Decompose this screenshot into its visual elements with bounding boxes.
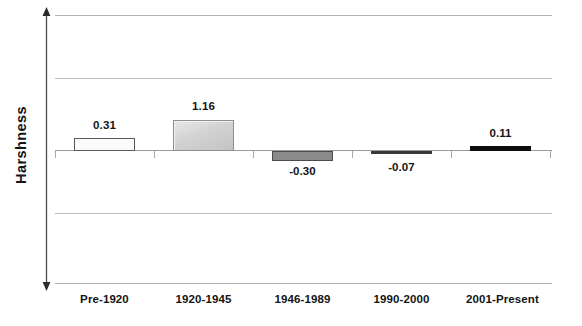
bar-pre-1920	[74, 138, 135, 151]
y-axis-title-label: Harshness	[13, 106, 29, 184]
arrow-up-icon	[43, 7, 51, 16]
x-axis-label-1920-1945: 1920-1945	[164, 293, 243, 305]
axis-tick	[352, 151, 353, 158]
gridline-lower	[55, 213, 552, 214]
axis-tick	[55, 151, 56, 158]
bar-1946-1989	[272, 151, 333, 161]
bar-value-label-pre-1920: 0.31	[74, 119, 135, 131]
x-axis-label-1990-2000: 1990-2000	[362, 293, 441, 305]
axis-tick	[154, 151, 155, 158]
x-axis-label-1946-1989: 1946-1989	[263, 293, 342, 305]
arrow-down-icon	[43, 282, 51, 291]
bar-1920-1945	[173, 120, 234, 151]
gridline-bottom	[55, 283, 552, 284]
y-axis-arrow	[38, 6, 55, 292]
plot-area: 0.31 1.16 -0.30 -0.07 0.11	[55, 6, 552, 292]
bar-value-label-1990-2000: -0.07	[366, 161, 437, 173]
axis-tick	[253, 151, 254, 158]
bar-2001-present	[470, 146, 531, 151]
gridline-upper	[55, 78, 552, 79]
bar-value-label-1920-1945: 1.16	[173, 100, 234, 112]
x-axis-label-2001-present: 2001-Present	[456, 293, 549, 305]
bar-value-label-1946-1989: -0.30	[267, 165, 338, 177]
bar-1990-2000	[371, 151, 432, 154]
axis-tick	[451, 151, 452, 158]
harshness-bar-chart: Harshness 0.31 1.16 -0.30	[0, 0, 582, 326]
y-axis-title: Harshness	[0, 0, 42, 290]
bar-value-label-2001-present: 0.11	[470, 127, 531, 139]
axis-tick	[550, 151, 551, 158]
x-axis-labels: Pre-1920 1920-1945 1946-1989 1990-2000 2…	[55, 293, 552, 319]
gridline-top	[55, 15, 552, 16]
x-axis-label-pre-1920: Pre-1920	[65, 293, 144, 305]
